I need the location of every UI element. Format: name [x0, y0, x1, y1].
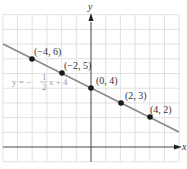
point-2-3	[118, 100, 124, 106]
point-label-0-4: (0, 4)	[96, 75, 118, 87]
point-label-neg2-5: (−2, 5)	[64, 60, 91, 72]
equation-fraction-denominator: 2	[42, 82, 47, 92]
point-label-2-3: (2, 3)	[125, 90, 147, 102]
y-axis-arrow-icon	[89, 13, 94, 21]
point-neg2-5	[59, 70, 65, 76]
x-axis-arrow-icon	[174, 145, 182, 150]
coordinate-plane: x y y = − 1 2 x + 4 (−4, 6) (−2, 5) (0, …	[0, 0, 187, 169]
equation-label-rhs: x + 4	[49, 77, 68, 87]
equation-label-lhs: y = −	[12, 77, 31, 87]
equation-fraction-numerator: 1	[42, 72, 47, 82]
point-4-2	[147, 114, 153, 120]
point-0-4	[88, 85, 94, 91]
point-label-neg4-6: (−4, 6)	[34, 46, 61, 58]
point-label-4-2: (4, 2)	[150, 104, 172, 116]
x-axis-label: x	[181, 141, 187, 152]
y-axis-label: y	[87, 1, 93, 12]
point-neg4-6	[29, 56, 35, 62]
